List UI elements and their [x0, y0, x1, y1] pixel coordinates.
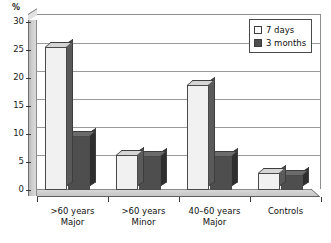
x-label-line-1: 40–60 years [179, 206, 250, 217]
y-tick-label: 30 [5, 17, 24, 25]
axis-wall [28, 20, 37, 196]
y-tick-label: 10 [5, 129, 24, 137]
x-tick-1 [108, 197, 109, 202]
legend[interactable]: 7 days 3 months [249, 19, 312, 53]
x-label-line-2: Minor [108, 217, 179, 228]
x-label-line-2: Major [37, 217, 108, 228]
y-tick-label: 5 [5, 157, 24, 165]
x-label-line-1: Controls [250, 206, 321, 217]
x-label-line-2: Major [179, 217, 250, 228]
gridline-10 [37, 127, 320, 128]
bar-front-face [187, 85, 209, 190]
legend-label-3-months: 3 months [266, 38, 306, 48]
bar-front-face [258, 173, 280, 190]
y-tick-label: 0 [5, 185, 24, 193]
y-tick-dash [26, 190, 31, 191]
x-tick-4 [321, 197, 322, 202]
x-axis-label-group-4: Controls [250, 206, 321, 217]
x-tick-3 [250, 197, 251, 202]
bar-7-days-group-1[interactable] [45, 47, 67, 190]
y-tick-dash [26, 162, 31, 163]
x-tick-0 [37, 197, 38, 202]
x-axis-label-group-1: >60 yearsMajor [37, 206, 108, 228]
x-label-line-1: >60 years [37, 206, 108, 217]
legend-item-7-days[interactable]: 7 days [254, 23, 306, 36]
y-tick-dash [26, 78, 31, 79]
bar-side-face [90, 128, 96, 186]
x-label-line-1: >60 years [108, 206, 179, 217]
legend-swatch-icon-7-days [254, 26, 262, 34]
y-tick-label: 20 [5, 73, 24, 81]
x-axis-label-group-3: 40–60 yearsMajor [179, 206, 250, 228]
y-tick-dash [26, 106, 31, 107]
bar-7-days-group-3[interactable] [187, 85, 209, 190]
y-tick-dash [26, 22, 31, 23]
x-axis-label-group-2: >60 yearsMinor [108, 206, 179, 228]
legend-item-3-months[interactable]: 3 months [254, 36, 306, 49]
x-tick-2 [179, 197, 180, 202]
y-tick-label: 15 [5, 101, 24, 109]
bar-front-face [116, 155, 138, 190]
legend-swatch-icon-3-months [254, 39, 262, 47]
bar-side-face [209, 77, 215, 186]
legend-label-7-days: 7 days [266, 25, 294, 35]
bar-front-face [45, 47, 67, 190]
gridline-15 [37, 99, 320, 100]
y-axis-unit-label: % [12, 3, 20, 12]
gridline-20 [37, 71, 320, 72]
bar-side-face [67, 39, 73, 186]
y-tick-label: 25 [5, 45, 24, 53]
y-tick-dash [26, 134, 31, 135]
bar-7-days-group-2[interactable] [116, 155, 138, 190]
bar-7-days-group-4[interactable] [258, 173, 280, 190]
bar-chart: % 051015202530 >60 yearsMajor>60 yearsMi… [0, 0, 331, 243]
y-tick-dash [26, 50, 31, 51]
